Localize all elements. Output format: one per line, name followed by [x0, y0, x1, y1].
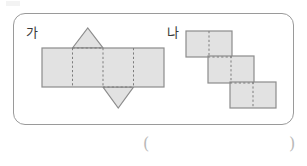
- answer-close-paren: ): [289, 136, 295, 152]
- figures-panel: [13, 13, 294, 125]
- answer-open-paren: (: [143, 136, 149, 152]
- worksheet-figure-page: 가 나 (: [0, 0, 307, 166]
- figure-label-ga: 가: [26, 26, 38, 39]
- answer-row: ( ): [0, 128, 307, 162]
- scan-artifact: [6, 1, 20, 6]
- figure-label-na: 나: [167, 26, 179, 39]
